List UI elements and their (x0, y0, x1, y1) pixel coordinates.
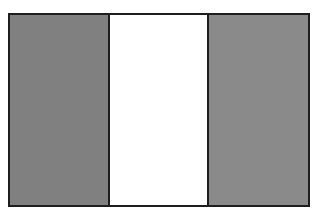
tricolor-flag (8, 13, 310, 207)
flag-band-right (207, 15, 308, 205)
flag-band-left (10, 15, 110, 205)
flag-band-middle (110, 15, 207, 205)
